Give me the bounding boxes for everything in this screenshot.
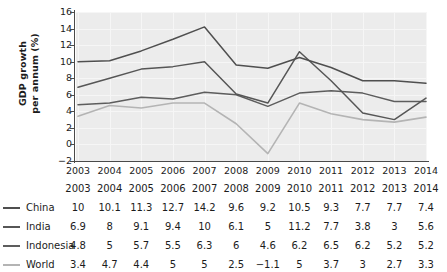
table-column-header: 2004 [93,179,127,198]
y-tick-mark [70,78,75,79]
table-cell: 4.6 [251,236,285,255]
table-column-header: 2005 [124,179,158,198]
y-axis-line [74,10,75,163]
y-tick-label: 8 [41,73,72,83]
table-column-header: 2007 [188,179,222,198]
y-axis-title: GDP growth per annum (%) [17,0,40,154]
table-cell: 5.5 [156,236,190,255]
table-cell: 9.4 [156,217,190,236]
y-tick-mark [70,95,75,96]
table-column-header: 2008 [219,179,253,198]
table-cell: 4.4 [124,255,158,272]
table-cell: 7.7 [346,198,380,217]
line-series-china [78,27,426,83]
data-table: 2003200420052006200720082009201020112012… [0,179,447,272]
table-cell: 5 [282,255,316,272]
table-cell: 3.3 [409,255,443,272]
table-cell: 2.7 [377,255,411,272]
legend-swatch-china [3,207,20,209]
x-axis-tick-labels: 2003200420052006200720082009201020112012… [76,165,431,179]
y-tick-mark [70,144,75,145]
table-cell: 5 [251,217,285,236]
table-cell: 6.5 [314,236,348,255]
table-cell: 5 [156,255,190,272]
table-cell: 5.2 [409,236,443,255]
table-cell: 11.3 [124,198,158,217]
table-cell: 10.1 [93,198,127,217]
table-column-header: 2011 [314,179,348,198]
y-tick-label: 10 [41,57,72,67]
table-header-row: 2003200420052006200720082009201020112012… [0,179,447,198]
legend-label-india: India [26,217,51,236]
legend-label-world: World [26,255,55,272]
y-tick-label: 0 [41,139,72,149]
y-tick-label: 14 [41,24,72,34]
table-cell: 5 [93,236,127,255]
table-cell: 9.2 [251,198,285,217]
table-cell: 6.2 [346,236,380,255]
table-cell: 3.7 [314,255,348,272]
table-cell: 6 [219,236,253,255]
table-cell: 10 [188,217,222,236]
table-cell: 6.3 [188,236,222,255]
table-cell: 9.3 [314,198,348,217]
line-series-world [78,103,426,153]
table-row: China1010.111.312.714.29.69.210.59.37.77… [0,198,447,217]
table-cell: 8 [93,217,127,236]
y-tick-label: 4 [41,106,72,116]
legend-swatch-india [3,226,20,228]
y-tick-label: 2 [41,123,72,133]
table-cell: 9.6 [219,198,253,217]
table-column-header: 2014 [409,179,443,198]
table-cell: 10.5 [282,198,316,217]
table-cell: 5 [188,255,222,272]
table-cell: 10 [61,198,95,217]
table-column-header: 2009 [251,179,285,198]
y-tick-label: 12 [41,40,72,50]
y-tick-mark [70,111,75,112]
y-tick-mark [70,128,75,129]
table-cell: 5.6 [409,217,443,236]
table-cell: 7.7 [314,217,348,236]
table-cell: 6.2 [282,236,316,255]
table-cell: 6.1 [219,217,253,236]
table-cell: 7.7 [377,198,411,217]
table-cell: 9.1 [124,217,158,236]
table-row: Indonesia4.855.75.56.364.66.26.56.25.25.… [0,236,447,255]
table-cell: 3 [346,255,380,272]
table-cell: 3.8 [346,217,380,236]
table-row: World3.44.74.4552.5−1.153.732.73.3 [0,255,447,272]
table-cell: 7.4 [409,198,443,217]
y-tick-label: 6 [41,90,72,100]
table-row: India6.989.19.4106.1511.27.73.835.6 [0,217,447,236]
y-tick-label: 16 [41,7,72,17]
y-tick-mark [70,161,75,162]
table-cell: −1.1 [251,255,285,272]
table-cell: 11.2 [282,217,316,236]
table-cell: 4.7 [93,255,127,272]
x-tick-label: 2014 [406,165,446,176]
table-column-header: 2013 [377,179,411,198]
y-tick-mark [70,12,75,13]
y-axis-tick-labels: −20246810121416 [41,0,72,168]
table-cell: 3.4 [61,255,95,272]
x-axis-line [74,161,429,162]
plot-area [76,12,427,161]
table-cell: 4.8 [61,236,95,255]
table-column-header: 2010 [282,179,316,198]
legend-label-china: China [26,198,55,217]
table-cell: 5.7 [124,236,158,255]
y-tick-mark [70,62,75,63]
series-lines [76,12,427,161]
table-cell: 12.7 [156,198,190,217]
legend-swatch-indonesia [3,245,20,247]
line-series-india [78,52,426,120]
y-tick-mark [70,45,75,46]
legend-swatch-world [3,264,20,266]
y-tick-mark [70,29,75,30]
table-column-header: 2006 [156,179,190,198]
table-cell: 2.5 [219,255,253,272]
table-column-header: 2003 [61,179,95,198]
table-column-header: 2012 [346,179,380,198]
